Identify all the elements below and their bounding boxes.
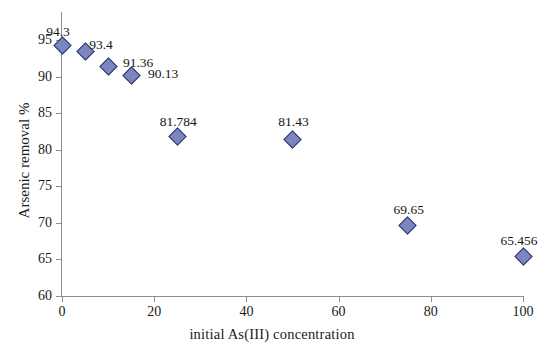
x-axis-tick-label: 80 xyxy=(424,305,438,319)
x-axis-line xyxy=(61,296,524,297)
data-point-label: 81.43 xyxy=(278,115,308,129)
data-point-label: 93.4 xyxy=(89,38,113,52)
x-axis-tick xyxy=(62,296,63,302)
y-axis-tick-label: 60 xyxy=(22,289,52,303)
x-axis-tick-label: 100 xyxy=(513,305,534,319)
x-axis-tick xyxy=(523,296,524,302)
x-axis-tick xyxy=(246,296,247,302)
data-point-marker xyxy=(168,127,186,145)
data-point-label: 81.784 xyxy=(160,115,197,129)
x-axis-tick-label: 0 xyxy=(59,305,66,319)
y-axis-tick xyxy=(56,77,62,78)
x-axis-tick xyxy=(154,296,155,302)
data-point-label: 94.3 xyxy=(46,25,70,39)
data-point-marker xyxy=(514,247,532,265)
y-axis-tick xyxy=(56,150,62,151)
data-point-label: 69.65 xyxy=(394,203,424,217)
y-axis-tick xyxy=(56,223,62,224)
x-axis-tick-label: 40 xyxy=(239,305,253,319)
y-axis-tick xyxy=(56,113,62,114)
x-axis-tick-label: 20 xyxy=(147,305,161,319)
chart-figure: 606570758085909502040608010094.393.491.3… xyxy=(0,0,544,348)
y-axis-tick xyxy=(56,259,62,260)
data-point-label: 65.456 xyxy=(500,234,537,248)
x-axis-tick xyxy=(431,296,432,302)
data-point-label: 90.13 xyxy=(148,67,178,81)
data-point-marker xyxy=(399,216,417,234)
x-axis-tick-label: 60 xyxy=(332,305,346,319)
y-axis-title: Arsenic removal % xyxy=(16,61,33,261)
data-point-marker xyxy=(283,130,301,148)
x-axis-title: initial As(III) concentration xyxy=(0,326,544,343)
data-point-marker xyxy=(99,57,117,75)
y-axis-tick xyxy=(56,186,62,187)
x-axis-tick xyxy=(339,296,340,302)
